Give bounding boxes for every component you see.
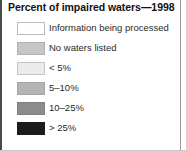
legend-item-label: 5–10% xyxy=(49,81,79,95)
legend-color-swatch xyxy=(17,42,45,55)
legend-color-swatch xyxy=(17,102,45,115)
legend-item-label: < 5% xyxy=(49,61,71,75)
legend-item-no-waters-listed: No waters listed xyxy=(0,41,186,61)
legend-row-list: Information being processed No waters li… xyxy=(0,21,186,141)
legend-item-over-25-percent: > 25% xyxy=(0,121,186,141)
legend-color-swatch xyxy=(17,122,45,135)
legend-item-information-being-processed: Information being processed xyxy=(0,21,186,41)
legend-item-10-to-25-percent: 10–25% xyxy=(0,101,186,121)
legend-item-label: Information being processed xyxy=(49,21,169,35)
legend-item-5-to-10-percent: 5–10% xyxy=(0,81,186,101)
legend-color-swatch xyxy=(17,62,45,75)
legend-color-swatch xyxy=(17,82,45,95)
legend-item-label: > 25% xyxy=(49,121,76,135)
legend-color-swatch xyxy=(17,22,45,35)
legend-title: Percent of impaired waters—1998 xyxy=(8,1,178,13)
map-legend-panel: Percent of impaired waters—1998 Informat… xyxy=(0,0,186,151)
legend-item-under-5-percent: < 5% xyxy=(0,61,186,81)
legend-item-label: No waters listed xyxy=(49,41,117,55)
legend-item-label: 10–25% xyxy=(49,101,84,115)
page-edge-rule-bottom xyxy=(0,150,186,151)
